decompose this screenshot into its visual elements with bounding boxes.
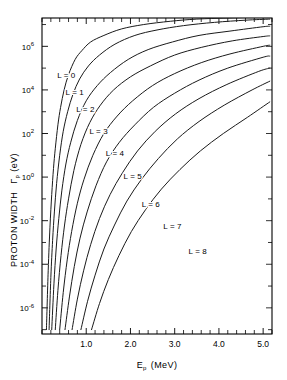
y-axis-title-subscript: p xyxy=(14,174,20,178)
curve-label-l4: L = 4 xyxy=(106,149,125,158)
x-tick-label: 2.0 xyxy=(125,339,137,349)
figure-container: L = 0L = 0L = 1L = 1L = 2L = 2L = 3L = 3… xyxy=(0,0,287,380)
curve-label-l1: L = 1 xyxy=(66,88,85,97)
x-axis-title-subscript: p xyxy=(143,365,147,371)
curve-label-l0: L = 0 xyxy=(57,71,76,80)
curve-label-l8: L = 8 xyxy=(189,247,208,256)
curve-label-l7: L = 7 xyxy=(163,222,182,231)
x-axis-title: Ep(MeV) xyxy=(137,360,178,371)
y-axis-title-text: PROTON WIDTH xyxy=(9,192,19,267)
svg-text:PROTON WIDTH Γp(eV): PROTON WIDTH Γp(eV) xyxy=(9,153,20,267)
y-axis-title: PROTON WIDTH Γp(eV) xyxy=(9,153,20,267)
curve-label-l6: L = 6 xyxy=(142,200,161,209)
chart-background xyxy=(0,0,287,380)
svg-text:Ep(MeV): Ep(MeV) xyxy=(137,360,178,371)
x-tick-label: 3.0 xyxy=(169,339,181,349)
x-tick-label: 1.0 xyxy=(80,339,92,349)
x-axis-title-unit: (MeV) xyxy=(151,360,178,370)
curve-label-l5: L = 5 xyxy=(124,172,143,181)
curve-label-l3: L = 3 xyxy=(90,127,109,136)
x-tick-label: 5.0 xyxy=(257,339,269,349)
y-axis-title-unit: (eV) xyxy=(9,153,19,172)
proton-width-chart: L = 0L = 0L = 1L = 1L = 2L = 2L = 3L = 3… xyxy=(0,0,287,380)
curve-label-l2: L = 2 xyxy=(76,105,95,114)
x-tick-label: 4.0 xyxy=(213,339,225,349)
